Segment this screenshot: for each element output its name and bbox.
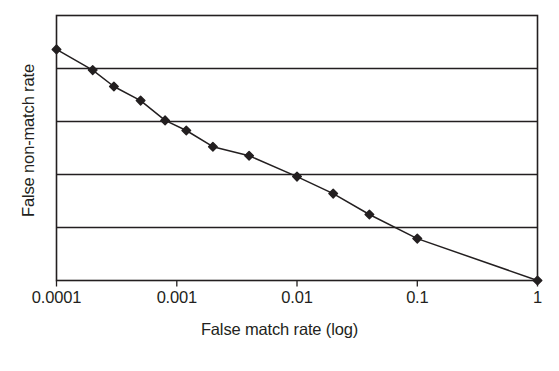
data-point-marker bbox=[245, 151, 254, 160]
data-point-marker bbox=[293, 172, 302, 181]
data-point-marker bbox=[413, 234, 422, 243]
data-point-marker bbox=[182, 126, 191, 135]
series-markers bbox=[52, 45, 542, 285]
x-axis-tick-label: 0.01 bbox=[281, 288, 312, 307]
x-axis-ticks bbox=[57, 281, 538, 287]
x-axis-tick-labels: 0.00010.0010.010.11 bbox=[0, 288, 559, 310]
series-line bbox=[57, 49, 538, 280]
x-axis-tick-label: 0.0001 bbox=[32, 288, 81, 307]
data-point-marker bbox=[533, 276, 542, 285]
plot-area bbox=[0, 0, 559, 371]
gridlines bbox=[57, 69, 538, 228]
chart-figure: False non-match rate 0.00010.0010.010.11… bbox=[0, 0, 559, 371]
x-axis-tick-label: 0.001 bbox=[157, 288, 197, 307]
x-axis-tick-label: 1 bbox=[533, 288, 542, 307]
data-point-marker bbox=[52, 45, 61, 54]
x-axis-label: False match rate (log) bbox=[0, 320, 559, 339]
plot-frame bbox=[57, 16, 538, 281]
data-point-marker bbox=[365, 210, 374, 219]
data-point-marker bbox=[329, 189, 338, 198]
x-axis-tick-label: 0.1 bbox=[406, 288, 428, 307]
x-axis-label-text: False match rate (log) bbox=[201, 320, 358, 338]
data-point-marker bbox=[209, 142, 218, 151]
